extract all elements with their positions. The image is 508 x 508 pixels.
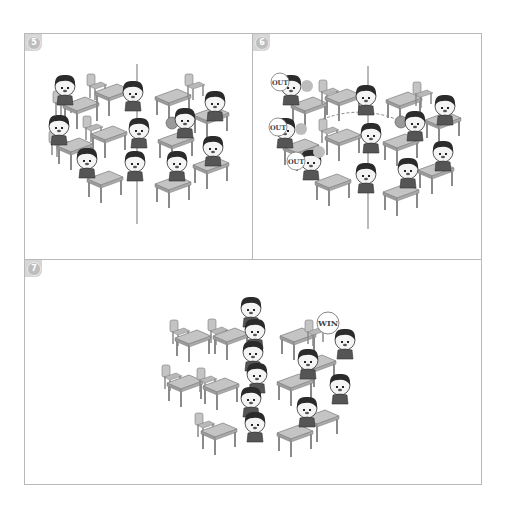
svg-text:OUT: OUT <box>272 79 288 87</box>
out-label: OUT <box>269 118 287 136</box>
comic-panel-5: 5 <box>24 33 253 260</box>
out-label: OUT <box>271 73 289 91</box>
classroom-elimination-illustration: OUT OUT OUT <box>253 34 483 261</box>
svg-text:WIN: WIN <box>317 318 338 328</box>
classroom-illustration <box>25 34 254 261</box>
svg-text:OUT: OUT <box>270 124 286 132</box>
comic-panel-6: 6 <box>252 33 482 260</box>
win-label: WIN <box>317 312 339 334</box>
classroom-result-illustration: WIN <box>25 260 483 486</box>
comic-panel-7: 7 <box>24 259 482 485</box>
out-label: OUT <box>287 152 305 170</box>
svg-text:OUT: OUT <box>288 158 304 166</box>
